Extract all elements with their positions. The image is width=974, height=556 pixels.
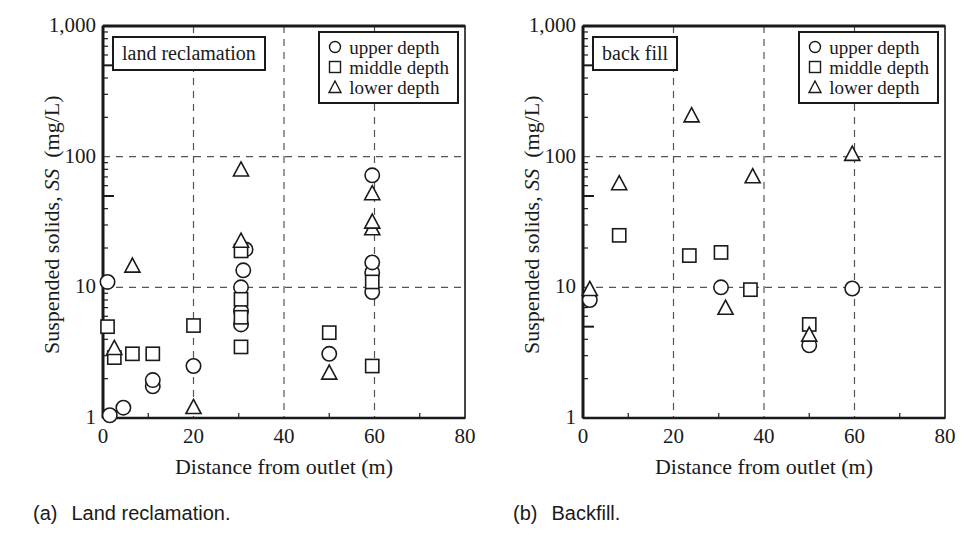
x-tick-label: 20 [649,426,699,447]
triangle-marker-icon [326,78,344,96]
panel-caption-text-a: Land reclamation. [71,502,230,524]
data-point-triangle [322,365,337,379]
data-point-square [613,229,626,242]
data-point-circle [146,373,160,387]
panel-backfill: back fill upper depth middle depth lower… [490,0,974,556]
plot-title-text-a: land reclamation [122,42,256,64]
y-axis-title-a: Suspended solids, SS (mg/L) [41,95,63,354]
data-point-square [234,340,247,353]
x-tick-label: 80 [920,426,970,447]
data-point-triangle [186,399,201,413]
legend-label-upper-depth: upper depth [349,38,439,57]
data-point-circle [236,263,250,277]
data-point-circle [845,281,859,295]
y-tick-label: 1 [566,407,577,428]
panel-caption-b: (b)Backfill. [513,503,620,523]
data-point-square [744,283,757,296]
data-point-circle [714,280,728,294]
legend-a: upper depth middle depth lower depth [318,31,459,104]
x-tick-label: 0 [78,426,128,447]
data-point-triangle [125,258,140,272]
x-tick-label: 20 [169,426,219,447]
legend-label-middle-depth: middle depth [349,58,449,77]
data-point-triangle [718,300,733,314]
data-point-circle [116,400,130,414]
y-tick-label: 1 [86,407,97,428]
y-tick-label: 100 [65,146,97,167]
panel-caption-text-b: Backfill. [551,502,620,524]
legend-item-middle-depth: middle depth [326,57,449,77]
legend-item-lower-depth: lower depth [806,77,929,97]
square-marker-icon [326,58,344,76]
x-tick-label: 80 [440,426,490,447]
data-point-triangle [365,186,380,200]
y-tick-label: 1,000 [49,15,96,36]
data-point-triangle [365,214,380,228]
y-axis-title-b: Suspended solids, SS (mg/L) [521,95,543,354]
legend-label-lower-depth: lower depth [829,78,919,97]
data-point-square [683,249,696,262]
data-point-triangle [745,169,760,183]
data-point-triangle [684,108,699,122]
data-point-triangle [107,340,122,354]
data-point-triangle [612,176,627,190]
panel-caption-number-a: (a) [33,502,57,524]
y-tick-label: 10 [75,276,96,297]
data-point-circle [365,255,379,269]
x-axis-title-b: Distance from outlet (m) [583,456,945,478]
data-point-triangle [582,281,597,295]
data-point-circle [100,275,114,289]
panel-land-reclamation: land reclamation upper depth middle dept… [0,0,490,556]
x-axis-title-a: Distance from outlet (m) [103,456,465,478]
y-tick-label: 10 [555,276,576,297]
data-point-square [323,326,336,339]
data-point-square [366,359,379,372]
y-tick-label: 1,000 [529,15,576,36]
x-tick-label: 60 [350,426,400,447]
plot-title-text-b: back fill [602,42,668,64]
legend-item-lower-depth: lower depth [326,77,449,97]
data-point-square [366,275,379,288]
data-point-square [187,319,200,332]
x-tick-label: 60 [830,426,880,447]
data-point-square [146,347,159,360]
legend-item-upper-depth: upper depth [326,37,449,57]
series-middle-depth [613,229,816,331]
legend-item-upper-depth: upper depth [806,37,929,57]
plot-title-box-a: land reclamation [112,36,266,71]
square-marker-icon [806,58,824,76]
data-point-square [234,293,247,306]
data-point-triangle [233,162,248,176]
data-point-square [714,246,727,259]
circle-marker-icon [806,38,824,56]
x-tick-label: 40 [739,426,789,447]
series-lower-depth [582,108,860,341]
data-point-triangle [233,233,248,247]
data-point-square [234,311,247,324]
legend-label-upper-depth: upper depth [829,38,919,57]
data-point-circle [365,168,379,182]
figure-two-panel-scatter: land reclamation upper depth middle dept… [0,0,974,556]
data-point-circle [186,359,200,373]
plot-title-box-b: back fill [592,36,678,71]
data-point-triangle [845,146,860,160]
legend-item-middle-depth: middle depth [806,57,929,77]
triangle-marker-icon [806,78,824,96]
data-point-square [126,347,139,360]
x-tick-label: 40 [259,426,309,447]
data-point-square [101,320,114,333]
panel-caption-number-b: (b) [513,502,537,524]
legend-label-middle-depth: middle depth [829,58,929,77]
y-tick-label: 100 [545,146,577,167]
circle-marker-icon [326,38,344,56]
data-point-circle [103,408,117,422]
panel-caption-a: (a)Land reclamation. [33,503,230,523]
legend-label-lower-depth: lower depth [349,78,439,97]
x-tick-label: 0 [558,426,608,447]
legend-b: upper depth middle depth lower depth [798,31,939,104]
data-point-circle [322,347,336,361]
